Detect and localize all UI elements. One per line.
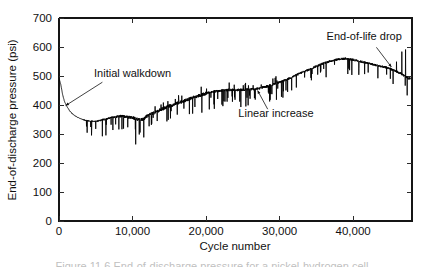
x-tick-label-40000: 40,000: [336, 225, 371, 237]
right-axis-ticks: [407, 47, 412, 192]
annotation-label-linear-increase: Linear increase: [238, 107, 313, 119]
x-tick-label-10000: 10,000: [115, 225, 150, 237]
y-tick-label-300: 300: [33, 128, 52, 140]
y-tick-label-0: 0: [46, 215, 52, 227]
annotations-group: Initial walkdownLinear increaseEnd-of-li…: [66, 30, 402, 119]
y-tick-label-600: 600: [33, 41, 52, 53]
figure-container: 0100200300400500600700 010,00020,00030,0…: [0, 0, 424, 267]
y-axis-ticks: [59, 18, 64, 221]
x-tick-labels: 010,00020,00030,00040,000: [56, 225, 371, 237]
pressure-data-line: [59, 49, 410, 144]
x-tick-label-20000: 20,000: [188, 225, 223, 237]
x-axis-title: Cycle number: [200, 240, 271, 252]
x-tick-label-30000: 30,000: [262, 225, 297, 237]
y-tick-label-500: 500: [33, 70, 52, 82]
y-axis-title: End-of-discharge pressure (psi): [6, 39, 18, 200]
y-tick-label-100: 100: [33, 186, 52, 198]
x-tick-label-0: 0: [56, 225, 62, 237]
annotation-leader-initial-walkdown: [66, 82, 103, 105]
data-series-group: [59, 49, 410, 144]
annotation-label-end-of-life-drop: End-of-life drop: [327, 30, 402, 42]
y-tick-label-200: 200: [33, 157, 52, 169]
plot-frame: [59, 18, 412, 221]
y-tick-labels: 0100200300400500600700: [33, 12, 52, 227]
annotation-label-initial-walkdown: Initial walkdown: [94, 67, 171, 79]
annotation-leader-end-of-life-drop: [376, 47, 391, 67]
figure-caption: Figure 11.6 End-of-discharge pressure fo…: [0, 260, 424, 267]
end-of-discharge-pressure-chart: 0100200300400500600700 010,00020,00030,0…: [0, 0, 424, 267]
y-tick-label-700: 700: [33, 12, 52, 24]
y-tick-label-400: 400: [33, 99, 52, 111]
